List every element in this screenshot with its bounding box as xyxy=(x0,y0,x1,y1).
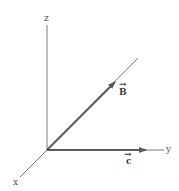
y-axis-label: y xyxy=(165,144,172,154)
x-axis-label: x xyxy=(13,177,18,187)
coordinate-diagram: z y x → B → c xyxy=(0,0,179,191)
vector-c-label: c xyxy=(126,156,132,166)
vector-c-label-group: → c xyxy=(124,149,132,166)
vector-b-label-group: → B xyxy=(119,79,127,97)
vector-b-label: B xyxy=(119,87,127,97)
z-axis-label: z xyxy=(44,13,49,23)
x-axis xyxy=(20,150,47,177)
vector-b-arrow xyxy=(47,82,115,150)
